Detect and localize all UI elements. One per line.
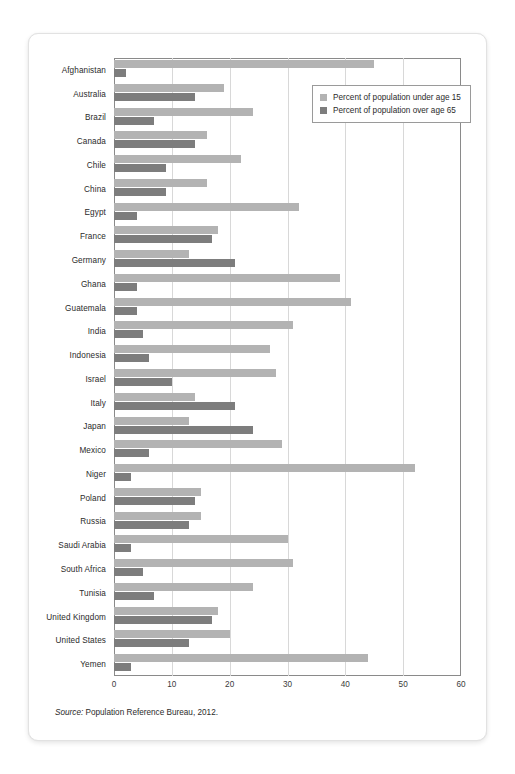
- bar-over-65: [114, 259, 235, 267]
- bar-over-65: [114, 663, 131, 671]
- bar-under-15: [114, 464, 415, 472]
- category-label: Egypt: [85, 208, 106, 217]
- category-label: Afghanistan: [62, 65, 106, 74]
- bar-under-15: [114, 440, 282, 448]
- category-label: Niger: [86, 469, 106, 478]
- bar-row: Yemen: [114, 652, 461, 676]
- bar-over-65: [114, 616, 212, 624]
- bar-under-15: [114, 535, 288, 543]
- x-tick-label: 30: [283, 680, 292, 689]
- bar-row: Saudi Arabia: [114, 533, 461, 557]
- bar-row: France: [114, 224, 461, 248]
- bar-over-65: [114, 330, 143, 338]
- bar-under-15: [114, 417, 189, 425]
- chart-legend: Percent of population under age 15 Perce…: [312, 85, 471, 123]
- bar-under-15: [114, 60, 374, 68]
- source-text: Population Reference Bureau, 2012.: [86, 708, 218, 717]
- plot-region: AfghanistanAustraliaBrazilCanadaChileChi…: [114, 58, 461, 676]
- legend-swatch-over-65: [320, 107, 327, 114]
- bar-over-65: [114, 568, 143, 576]
- bar-row: India: [114, 319, 461, 343]
- bar-over-65: [114, 117, 154, 125]
- bar-under-15: [114, 559, 293, 567]
- bar-under-15: [114, 203, 299, 211]
- category-label: Poland: [80, 493, 106, 502]
- bar-row: Tunisia: [114, 581, 461, 605]
- bar-under-15: [114, 607, 218, 615]
- bar-over-65: [114, 235, 212, 243]
- x-tick-label: 40: [341, 680, 350, 689]
- bar-over-65: [114, 378, 172, 386]
- bar-under-15: [114, 298, 351, 306]
- bar-under-15: [114, 179, 207, 187]
- bar-row: Egypt: [114, 201, 461, 225]
- bar-over-65: [114, 283, 137, 291]
- bar-under-15: [114, 155, 241, 163]
- legend-label-over-65: Percent of population over age 65: [333, 106, 456, 115]
- category-label: Saudi Arabia: [58, 541, 106, 550]
- category-label: Japan: [83, 422, 106, 431]
- category-label: Brazil: [85, 113, 106, 122]
- x-tick-label: 60: [456, 680, 465, 689]
- bar-over-65: [114, 140, 195, 148]
- source-note: Source: Population Reference Bureau, 201…: [55, 708, 218, 717]
- legend-swatch-under-15: [320, 94, 327, 101]
- bar-over-65: [114, 497, 195, 505]
- category-label: South Africa: [61, 565, 106, 574]
- category-label: Germany: [72, 256, 106, 265]
- category-label: Israel: [85, 374, 106, 383]
- bar-row: Canada: [114, 129, 461, 153]
- bar-over-65: [114, 69, 126, 77]
- bar-row: United States: [114, 628, 461, 652]
- bar-rows: AfghanistanAustraliaBrazilCanadaChileChi…: [114, 58, 461, 676]
- figure-card: AfghanistanAustraliaBrazilCanadaChileChi…: [28, 33, 487, 741]
- category-label: United Kingdom: [46, 612, 106, 621]
- bar-over-65: [114, 473, 131, 481]
- bar-row: Israel: [114, 367, 461, 391]
- bar-row: Niger: [114, 462, 461, 486]
- bar-under-15: [114, 250, 189, 258]
- bar-under-15: [114, 345, 270, 353]
- bar-row: South Africa: [114, 557, 461, 581]
- bar-row: Poland: [114, 486, 461, 510]
- bar-over-65: [114, 93, 195, 101]
- legend-item-over-65: Percent of population over age 65: [320, 104, 461, 117]
- category-label: Chile: [87, 160, 106, 169]
- bar-under-15: [114, 369, 276, 377]
- bar-over-65: [114, 449, 149, 457]
- category-label: Italy: [90, 398, 106, 407]
- bar-row: Chile: [114, 153, 461, 177]
- bar-row: Mexico: [114, 438, 461, 462]
- category-label: France: [80, 232, 106, 241]
- bar-under-15: [114, 321, 293, 329]
- bar-under-15: [114, 393, 195, 401]
- category-label: Yemen: [80, 660, 106, 669]
- bar-over-65: [114, 354, 149, 362]
- category-label: Indonesia: [70, 351, 106, 360]
- bar-over-65: [114, 212, 137, 220]
- bar-over-65: [114, 639, 189, 647]
- bar-under-15: [114, 654, 368, 662]
- bar-row: Guatemala: [114, 296, 461, 320]
- bar-row: China: [114, 177, 461, 201]
- bar-row: Indonesia: [114, 343, 461, 367]
- bar-over-65: [114, 164, 166, 172]
- bar-row: Italy: [114, 391, 461, 415]
- category-label: United States: [56, 636, 106, 645]
- legend-label-under-15: Percent of population under age 15: [333, 93, 461, 102]
- bar-under-15: [114, 84, 224, 92]
- bar-under-15: [114, 488, 201, 496]
- bar-over-65: [114, 521, 189, 529]
- x-tick-label: 10: [167, 680, 176, 689]
- bar-under-15: [114, 512, 201, 520]
- source-prefix: Source:: [55, 708, 83, 717]
- category-label: Russia: [80, 517, 106, 526]
- category-label: Tunisia: [79, 588, 106, 597]
- category-label: Australia: [73, 89, 106, 98]
- x-tick-label: 50: [399, 680, 408, 689]
- bar-row: Germany: [114, 248, 461, 272]
- legend-item-under-15: Percent of population under age 15: [320, 91, 461, 104]
- category-label: Guatemala: [65, 303, 106, 312]
- category-label: Mexico: [79, 446, 106, 455]
- bar-under-15: [114, 583, 253, 591]
